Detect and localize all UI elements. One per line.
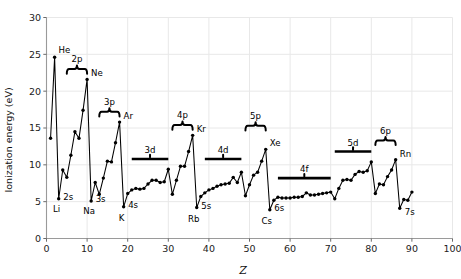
data-point <box>81 109 84 112</box>
element-label-He: He <box>59 45 71 55</box>
data-point <box>398 207 401 210</box>
data-point <box>187 150 190 153</box>
data-point <box>73 130 76 133</box>
data-point <box>292 196 295 199</box>
data-point <box>203 191 206 194</box>
data-point <box>353 173 356 176</box>
data-point <box>390 168 393 171</box>
element-label-Rb: Rb <box>188 214 199 224</box>
chart-background <box>0 0 461 279</box>
data-point <box>122 205 125 208</box>
subshell-label-6p: 6p <box>380 126 391 136</box>
data-point <box>374 192 377 195</box>
data-point <box>118 120 121 123</box>
element-label-7s: 7s <box>405 207 415 217</box>
subshell-label-5s: 5s <box>201 201 211 211</box>
data-point <box>167 168 170 171</box>
y-tick-label: 25 <box>29 49 41 60</box>
subshell-label-2s: 2s <box>63 192 73 202</box>
data-point <box>211 187 214 190</box>
data-point <box>110 160 113 163</box>
subshell-label-4d: 4d <box>218 145 229 155</box>
data-point <box>130 188 133 191</box>
element-label-Kr: Kr <box>197 124 207 134</box>
data-point <box>313 193 316 196</box>
data-point <box>394 158 397 161</box>
data-point <box>142 187 145 190</box>
data-point <box>276 196 279 199</box>
data-point <box>256 171 259 174</box>
element-label-Xe: Xe <box>270 138 281 148</box>
x-axis-title: Z <box>238 264 247 277</box>
y-tick-label: 5 <box>35 196 41 207</box>
data-point <box>386 175 389 178</box>
data-point <box>361 171 364 174</box>
data-point <box>171 193 174 196</box>
data-point <box>57 197 60 200</box>
x-tick-label: 40 <box>203 243 215 254</box>
element-label-Ar: Ar <box>124 111 134 121</box>
data-point <box>341 179 344 182</box>
element-label-Rn: Rn <box>400 149 411 159</box>
subshell-label-3s: 3s <box>96 194 106 204</box>
data-point <box>65 176 68 179</box>
data-point <box>402 198 405 201</box>
element-label-Cs: Cs <box>262 216 273 226</box>
data-point <box>85 78 88 81</box>
x-tick-label: 100 <box>443 243 461 254</box>
data-point <box>106 159 109 162</box>
x-tick-label: 20 <box>122 243 134 254</box>
data-point <box>195 206 198 209</box>
data-point <box>102 176 105 179</box>
data-point <box>248 183 251 186</box>
data-point <box>366 169 369 172</box>
data-point <box>179 165 182 168</box>
data-point <box>268 208 271 211</box>
data-point <box>199 195 202 198</box>
data-point <box>317 193 320 196</box>
ionization-energy-chart: 0102030405060708090100051015202530 2s2p3… <box>0 0 461 279</box>
data-point <box>215 185 218 188</box>
data-point <box>228 182 231 185</box>
data-point <box>53 56 56 59</box>
data-point <box>114 141 117 144</box>
x-tick-label: 80 <box>365 243 377 254</box>
data-point <box>264 148 267 151</box>
data-point <box>232 176 235 179</box>
data-point <box>309 193 312 196</box>
subshell-label-4f: 4f <box>300 164 309 174</box>
data-point <box>163 180 166 183</box>
data-point <box>272 198 275 201</box>
data-point <box>378 182 381 185</box>
data-point <box>183 165 186 168</box>
element-label-K: K <box>119 213 125 223</box>
data-point <box>49 137 52 140</box>
data-point <box>77 137 80 140</box>
data-point <box>150 179 153 182</box>
y-tick-label: 10 <box>29 159 41 170</box>
data-point <box>134 187 137 190</box>
x-tick-label: 10 <box>81 243 93 254</box>
subshell-label-4p: 4p <box>177 110 188 120</box>
data-point <box>357 170 360 173</box>
data-point <box>154 179 157 182</box>
data-point <box>207 188 210 191</box>
data-point <box>382 183 385 186</box>
data-point <box>406 198 409 201</box>
y-axis-title: Ionization energy (eV) <box>3 87 14 192</box>
x-tick-label: 50 <box>243 243 255 254</box>
data-point <box>126 192 129 195</box>
x-tick-label: 90 <box>406 243 418 254</box>
data-point <box>252 173 255 176</box>
data-point <box>337 187 340 190</box>
data-point <box>305 191 308 194</box>
data-point <box>321 192 324 195</box>
subshell-label-3d: 3d <box>145 145 156 155</box>
data-point <box>191 134 194 137</box>
y-tick-label: 30 <box>29 12 41 23</box>
subshell-label-5d: 5d <box>348 138 359 148</box>
y-tick-label: 0 <box>35 233 41 244</box>
data-point <box>345 178 348 181</box>
data-point <box>138 187 141 190</box>
data-point <box>297 196 300 199</box>
